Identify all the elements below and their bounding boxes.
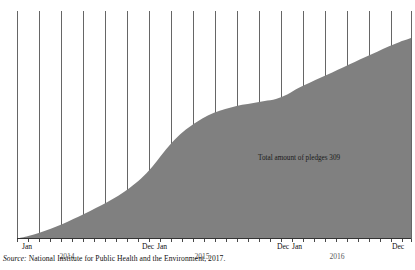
total-pledges-annotation: Total amount of pledges 309 bbox=[258, 154, 341, 162]
source-note: Source: National Institute for Public He… bbox=[3, 254, 411, 263]
source-label: Source: bbox=[3, 254, 27, 263]
chart-figure: JanDecJanDecJanDec 201420152016 Total am… bbox=[0, 0, 415, 270]
x-axis-month-label: Dec bbox=[142, 242, 155, 251]
x-axis-month-label: Dec bbox=[277, 242, 290, 251]
x-axis-month-label: Jan bbox=[22, 242, 32, 251]
source-text: National Institute for Public Health and… bbox=[27, 254, 226, 263]
x-axis-month-label: Jan bbox=[292, 242, 302, 251]
cumulative-pledges-area-chart: JanDecJanDecJanDec 201420152016 Total am… bbox=[0, 0, 415, 270]
x-axis-month-label: Dec bbox=[392, 242, 405, 251]
x-axis-month-label: Jan bbox=[157, 242, 167, 251]
